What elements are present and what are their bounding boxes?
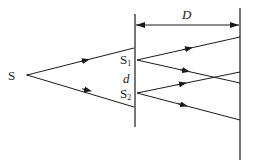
screen-distance-label: D xyxy=(182,8,191,21)
slit2-label: S2 xyxy=(120,87,131,102)
slit-ray-arrowheads xyxy=(177,48,189,105)
source-rays xyxy=(27,48,134,107)
slit1-label: S1 xyxy=(120,53,131,68)
source-point xyxy=(26,74,28,76)
slit2-label-sub: 2 xyxy=(127,93,131,102)
source-label: S xyxy=(8,69,15,82)
slit-rays xyxy=(137,37,240,120)
slit1-label-sub: 1 xyxy=(127,59,131,68)
slit-separation-label: d xyxy=(123,72,130,85)
